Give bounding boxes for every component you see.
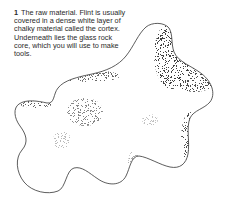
nodule-shading	[0, 0, 226, 197]
flint-nodule-illustration	[0, 0, 226, 197]
